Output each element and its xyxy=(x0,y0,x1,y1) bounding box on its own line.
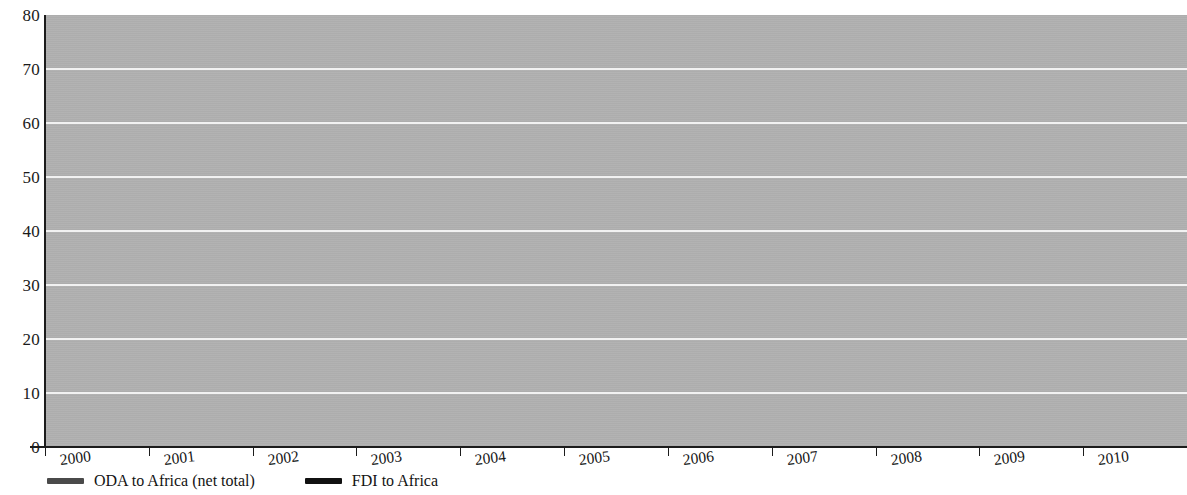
legend-swatch-oda xyxy=(47,478,84,484)
x-tick-label-2003: 2003 xyxy=(370,448,403,467)
x-tick-2006 xyxy=(668,447,669,456)
y-tick-label-20: 20 xyxy=(4,331,40,348)
x-tick-label-2006: 2006 xyxy=(682,448,715,467)
x-tick-2008 xyxy=(876,447,877,456)
gridline-30 xyxy=(45,284,1187,286)
plot-area xyxy=(45,15,1187,447)
x-tick-2001 xyxy=(149,447,150,456)
gridline-20 xyxy=(45,338,1187,340)
y-tick-label-70: 70 xyxy=(4,61,40,78)
legend-item-fdi: FDI to Africa xyxy=(305,473,438,489)
x-tick-label-2000: 2000 xyxy=(59,448,92,467)
gridline-10 xyxy=(45,392,1187,394)
x-tick-label-2008: 2008 xyxy=(890,448,923,467)
x-tick-label-2002: 2002 xyxy=(267,448,300,467)
y-axis-line xyxy=(44,15,46,448)
x-tick-label-2007: 2007 xyxy=(786,448,819,467)
gridline-70 xyxy=(45,68,1187,70)
y-axis-labels: 80706050403020100 xyxy=(0,0,40,495)
x-tick-label-2009: 2009 xyxy=(993,448,1026,467)
gridline-40 xyxy=(45,230,1187,232)
x-tick-label-2005: 2005 xyxy=(578,448,611,467)
x-tick-label-2001: 2001 xyxy=(163,448,196,467)
legend-item-oda: ODA to Africa (net total) xyxy=(47,473,255,489)
y-tick-label-80: 80 xyxy=(4,7,40,24)
x-tick-2009 xyxy=(979,447,980,456)
chart-legend: ODA to Africa (net total) FDI to Africa xyxy=(47,470,438,492)
legend-label-oda: ODA to Africa (net total) xyxy=(94,473,255,489)
x-tick-2010 xyxy=(1083,447,1084,456)
legend-label-fdi: FDI to Africa xyxy=(352,473,438,489)
y-tick-label-40: 40 xyxy=(4,223,40,240)
chart-figure: 80706050403020100 2000200120022003200420… xyxy=(0,0,1187,495)
y-tick-label-0: 0 xyxy=(4,439,40,456)
x-tick-label-2004: 2004 xyxy=(474,448,507,467)
x-tick-2002 xyxy=(253,447,254,456)
x-tick-2003 xyxy=(356,447,357,456)
gridline-60 xyxy=(45,122,1187,124)
x-tick-2000 xyxy=(45,447,46,456)
x-tick-label-2010: 2010 xyxy=(1097,448,1130,467)
x-tick-2007 xyxy=(772,447,773,456)
y-tick-label-60: 60 xyxy=(4,115,40,132)
legend-swatch-fdi xyxy=(305,478,342,484)
y-tick-label-10: 10 xyxy=(4,385,40,402)
x-tick-2004 xyxy=(460,447,461,456)
y-tick-label-50: 50 xyxy=(4,169,40,186)
y-tick-label-30: 30 xyxy=(4,277,40,294)
gridline-50 xyxy=(45,176,1187,178)
x-tick-2005 xyxy=(564,447,565,456)
